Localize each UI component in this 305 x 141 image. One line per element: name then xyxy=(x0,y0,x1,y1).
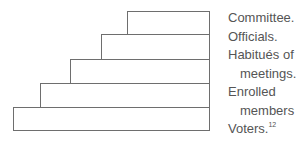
step-voters xyxy=(13,107,210,131)
footnote-marker: 12 xyxy=(268,121,276,128)
label-voters: Voters.12 xyxy=(228,120,296,139)
label-habitues-cont: meetings. xyxy=(228,65,296,84)
label-officials: Officials. xyxy=(228,28,296,47)
step-habitues xyxy=(70,59,210,84)
step-officials xyxy=(101,34,210,60)
label-voters-text: Voters. xyxy=(228,121,268,136)
legend-labels: Committee. Officials. Habitués of meetin… xyxy=(228,9,296,139)
step-committee xyxy=(127,11,210,35)
label-enrolled-cont: members xyxy=(228,102,296,121)
label-enrolled: Enrolled xyxy=(228,83,296,102)
step-enrolled-members xyxy=(40,83,210,108)
label-habitues: Habitués of xyxy=(228,46,296,65)
label-committee: Committee. xyxy=(228,9,296,28)
